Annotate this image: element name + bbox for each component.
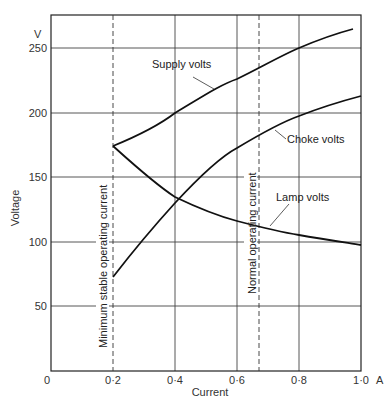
svg-text:0·8: 0·8 xyxy=(291,374,307,386)
svg-text:0: 0 xyxy=(44,374,50,386)
svg-text:0·2: 0·2 xyxy=(105,374,121,386)
svg-text:1·0: 1·0 xyxy=(353,374,369,386)
svg-text:200: 200 xyxy=(29,107,47,119)
min-current-label: Minimum stable operating current xyxy=(97,185,109,348)
svg-text:100: 100 xyxy=(29,236,47,248)
normal-current-label: Normal operating current xyxy=(246,172,258,294)
svg-text:150: 150 xyxy=(29,171,47,183)
x-axis-label: Current xyxy=(192,386,229,398)
y-axis-label: Voltage xyxy=(9,190,21,227)
y-unit: V xyxy=(34,28,42,40)
x-axis-ticks: 0 0·2 0·4 0·6 0·8 1·0 A xyxy=(44,374,384,386)
svg-text:0·6: 0·6 xyxy=(229,374,245,386)
x-unit: A xyxy=(376,374,384,386)
y-axis-ticks: 50 100 150 200 250 V xyxy=(29,28,47,312)
lamp-volts-label: Lamp volts xyxy=(276,191,330,203)
chart: Supply volts Choke volts Lamp volts Mini… xyxy=(0,0,392,407)
svg-text:0·4: 0·4 xyxy=(167,374,183,386)
svg-text:50: 50 xyxy=(35,300,47,312)
supply-volts-curve xyxy=(113,29,353,146)
svg-text:250: 250 xyxy=(29,42,47,54)
supply-volts-label: Supply volts xyxy=(152,58,212,70)
choke-volts-label: Choke volts xyxy=(287,133,345,145)
